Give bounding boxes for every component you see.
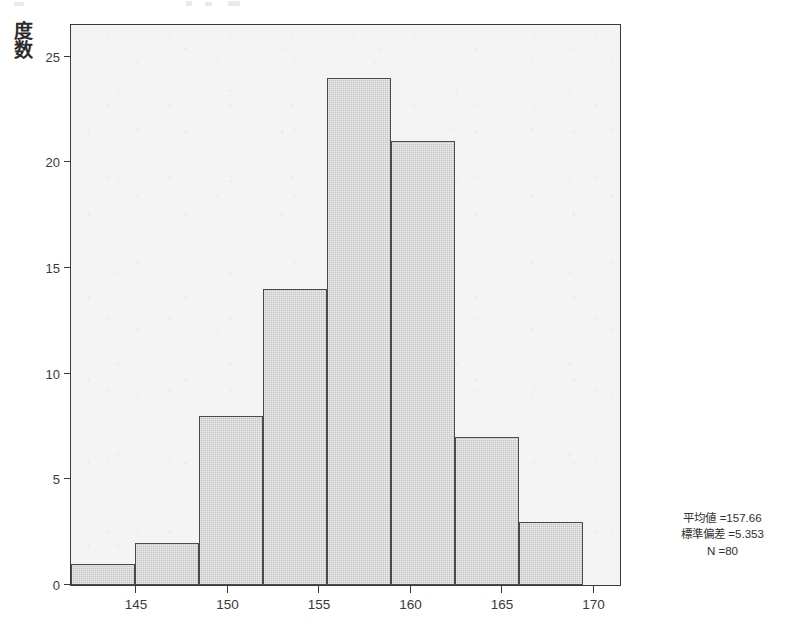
scan-artifact bbox=[186, 1, 192, 6]
y-axis-title: 度 数 bbox=[10, 22, 36, 61]
y-axis-tick-label: 10 bbox=[46, 366, 60, 381]
x-axis-tick-label: 170 bbox=[582, 597, 605, 612]
y-axis-tick-label: 20 bbox=[46, 155, 60, 170]
scan-artifact bbox=[14, 2, 24, 6]
stats-mean: 平均値 =157.66 bbox=[655, 510, 790, 526]
histogram-bar bbox=[455, 437, 519, 585]
scan-artifact bbox=[205, 2, 212, 6]
stats-annotation: 平均値 =157.66 標準偏差 =5.353 N =80 bbox=[655, 510, 790, 559]
y-axis-tick-label: 25 bbox=[46, 49, 60, 64]
y-axis-title-char-2: 数 bbox=[10, 41, 36, 60]
histogram-bar bbox=[199, 416, 263, 585]
x-axis-tick-label: 155 bbox=[308, 597, 331, 612]
y-axis-tick: 25 bbox=[64, 56, 71, 57]
x-axis-tick: 150 bbox=[227, 585, 228, 593]
x-axis-tick-label: 150 bbox=[216, 597, 239, 612]
x-axis-tick: 155 bbox=[318, 585, 319, 593]
y-axis-tick-label: 5 bbox=[53, 472, 60, 487]
x-axis-tick: 165 bbox=[501, 585, 502, 593]
y-axis-tick-label: 15 bbox=[46, 261, 60, 276]
stats-std-dev: 標準偏差 =5.353 bbox=[655, 526, 790, 542]
x-axis-tick-label: 165 bbox=[491, 597, 514, 612]
histogram-bar bbox=[71, 564, 135, 585]
x-axis-tick-label: 145 bbox=[125, 597, 148, 612]
scan-artifact bbox=[228, 1, 240, 6]
plot-inner: 0510152025145150155160165170 bbox=[71, 25, 620, 585]
plot-area: 0510152025145150155160165170 bbox=[70, 24, 621, 586]
y-axis-tick: 15 bbox=[64, 267, 71, 268]
x-axis-tick-label: 160 bbox=[399, 597, 422, 612]
histogram-bar bbox=[519, 522, 583, 585]
y-axis-title-char-1: 度 bbox=[10, 22, 36, 41]
histogram-bar bbox=[135, 543, 199, 585]
histogram-bar bbox=[327, 78, 391, 585]
y-axis-tick: 0 bbox=[64, 584, 71, 585]
y-axis-tick: 5 bbox=[64, 478, 71, 479]
stats-n: N =80 bbox=[655, 543, 790, 559]
y-axis-tick: 20 bbox=[64, 161, 71, 162]
histogram-bar bbox=[391, 141, 455, 585]
y-axis-tick-label: 0 bbox=[53, 578, 60, 593]
histogram-figure: 度 数 0510152025145150155160165170 平均値 =15… bbox=[0, 0, 795, 631]
y-axis-tick: 10 bbox=[64, 373, 71, 374]
x-axis-tick: 170 bbox=[593, 585, 594, 593]
histogram-bar bbox=[263, 289, 327, 585]
x-axis-tick: 160 bbox=[410, 585, 411, 593]
x-axis-tick: 145 bbox=[135, 585, 136, 593]
